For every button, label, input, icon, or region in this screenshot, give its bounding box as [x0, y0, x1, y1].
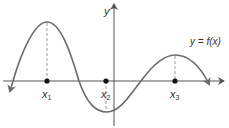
point-x2-label: x2 — [100, 88, 111, 101]
function-graph: y y = f(x) x1 x2 x3 — [0, 0, 229, 128]
point-x1-dot — [44, 78, 49, 83]
point-x2-dot — [103, 78, 108, 83]
point-x1-label: x1 — [41, 88, 52, 101]
y-axis-label: y — [103, 5, 111, 17]
point-x3-label: x3 — [169, 88, 180, 101]
function-curve-left-tail — [10, 81, 13, 91]
function-label: y = f(x) — [189, 36, 221, 47]
point-x3-dot — [172, 78, 177, 83]
